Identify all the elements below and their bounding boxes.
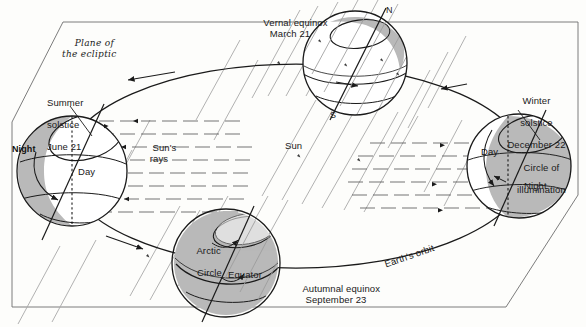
label-north-pole: N <box>386 5 393 16</box>
plane-of-ecliptic-label: Plane ofthe ecliptic <box>62 27 117 71</box>
label-arctic-circle: Arctic Circle <box>186 234 222 289</box>
label-autumnal-equinox: Autumnal equinoxSeptember 23 <box>292 272 380 316</box>
earth-orbit-path <box>64 64 528 268</box>
label-south-pole: S <box>330 110 336 121</box>
label-summer-day: Day <box>78 166 95 177</box>
sun-rays-right-arrowheads <box>432 143 445 213</box>
label-winter-solstice: Winter solstice December 22 <box>496 84 565 161</box>
label-winter-day: Day <box>481 146 498 157</box>
label-summer-night: Night <box>12 144 36 155</box>
label-sun: Sun <box>285 140 302 151</box>
label-summer-solstice: Summer solstice June 21 <box>36 86 83 163</box>
seasons-diagram: Plane ofthe ecliptic Summer solstice Jun… <box>0 0 586 327</box>
label-equator: Equator <box>228 269 262 280</box>
label-winter-night: Night <box>524 180 547 191</box>
label-vernal-equinox: Vernal equinoxMarch 21 <box>252 6 327 50</box>
label-suns-rays: Sun'srays <box>142 131 177 175</box>
label-circle-of-illumination: Circle of illumination <box>506 151 566 206</box>
